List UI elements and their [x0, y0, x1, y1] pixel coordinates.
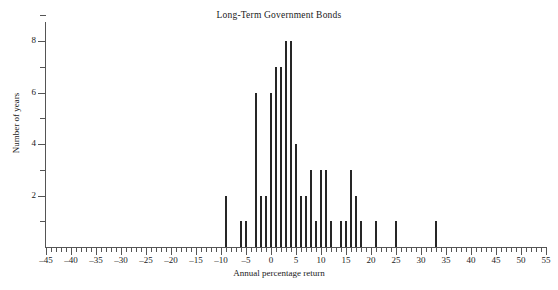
histogram-bar [270, 93, 272, 248]
x-tick-minor [166, 248, 167, 252]
x-tick-minor [266, 248, 267, 252]
x-tick-minor [241, 248, 242, 252]
histogram-bar [330, 221, 332, 247]
histogram-bar [275, 67, 277, 247]
y-tick-minor [40, 15, 46, 16]
x-tick-major [71, 248, 72, 255]
x-tick-minor [201, 248, 202, 252]
histogram-bar [260, 196, 262, 248]
x-tick-major [371, 248, 372, 255]
x-tick-minor [251, 248, 252, 252]
histogram-bar [280, 67, 282, 247]
x-tick-minor [191, 248, 192, 252]
x-tick-minor [61, 248, 62, 252]
x-tick-major [321, 248, 322, 255]
histogram-bar [285, 41, 287, 247]
x-tick-minor [126, 248, 127, 252]
x-tick-minor [56, 248, 57, 252]
histogram-bar [340, 221, 342, 247]
x-tick-minor [481, 248, 482, 252]
x-tick-major [46, 248, 47, 255]
histogram-bar [240, 221, 242, 247]
x-tick-minor [261, 248, 262, 252]
x-tick-minor [536, 248, 537, 252]
histogram-bar [305, 196, 307, 248]
x-tick-minor [391, 248, 392, 252]
x-tick-minor [186, 248, 187, 252]
x-tick-minor [106, 248, 107, 252]
x-tick-minor [311, 248, 312, 252]
x-tick-major [96, 248, 97, 255]
x-tick-minor [136, 248, 137, 252]
x-tick-minor [91, 248, 92, 252]
y-tick-label: 6 [22, 87, 36, 97]
x-tick-major [171, 248, 172, 255]
x-tick-minor [411, 248, 412, 252]
chart-title: Long-Term Government Bonds [0, 10, 558, 20]
x-tick-minor [236, 248, 237, 252]
x-tick-minor [211, 248, 212, 252]
x-tick-major [446, 248, 447, 255]
histogram-bar [225, 196, 227, 248]
x-tick-minor [466, 248, 467, 252]
histogram-bar [350, 170, 352, 247]
x-tick-major [421, 248, 422, 255]
histogram-bar [435, 221, 437, 247]
x-tick-major [496, 248, 497, 255]
histogram-bar [255, 93, 257, 248]
x-tick-major [521, 248, 522, 255]
x-tick-minor [401, 248, 402, 252]
x-tick-major [121, 248, 122, 255]
x-tick-minor [276, 248, 277, 252]
histogram-bar [245, 221, 247, 247]
x-tick-minor [386, 248, 387, 252]
x-tick-minor [161, 248, 162, 252]
y-tick-label: 2 [22, 190, 36, 200]
x-tick-minor [101, 248, 102, 252]
x-tick-minor [176, 248, 177, 252]
x-tick-minor [501, 248, 502, 252]
x-tick-minor [181, 248, 182, 252]
x-tick-minor [381, 248, 382, 252]
x-tick-minor [306, 248, 307, 252]
x-tick-minor [301, 248, 302, 252]
x-tick-minor [86, 248, 87, 252]
x-tick-major [546, 248, 547, 255]
x-tick-label: 55 [531, 255, 558, 265]
x-tick-major [471, 248, 472, 255]
x-tick-minor [316, 248, 317, 252]
histogram-bar [360, 221, 362, 247]
x-tick-minor [451, 248, 452, 252]
x-tick-minor [331, 248, 332, 252]
histogram-bar [345, 221, 347, 247]
y-tick-label: 4 [22, 138, 36, 148]
x-tick-minor [116, 248, 117, 252]
x-axis-title: Annual percentage return [0, 268, 558, 278]
x-tick-minor [461, 248, 462, 252]
y-axis-title: Number of years [11, 23, 21, 223]
x-tick-minor [376, 248, 377, 252]
x-tick-minor [361, 248, 362, 252]
y-tick-label: 8 [22, 35, 36, 45]
x-tick-major [221, 248, 222, 255]
histogram-bar [300, 196, 302, 248]
x-tick-major [196, 248, 197, 255]
x-tick-minor [336, 248, 337, 252]
histogram-bar [325, 170, 327, 247]
x-tick-minor [441, 248, 442, 252]
x-tick-minor [256, 248, 257, 252]
x-tick-minor [141, 248, 142, 252]
x-tick-minor [341, 248, 342, 252]
x-tick-minor [226, 248, 227, 252]
x-tick-minor [131, 248, 132, 252]
x-tick-minor [456, 248, 457, 252]
x-tick-minor [231, 248, 232, 252]
x-tick-minor [76, 248, 77, 252]
x-tick-major [146, 248, 147, 255]
x-tick-minor [291, 248, 292, 252]
x-tick-minor [351, 248, 352, 252]
x-tick-minor [491, 248, 492, 252]
x-tick-minor [281, 248, 282, 252]
histogram-bar [310, 170, 312, 247]
x-tick-minor [81, 248, 82, 252]
